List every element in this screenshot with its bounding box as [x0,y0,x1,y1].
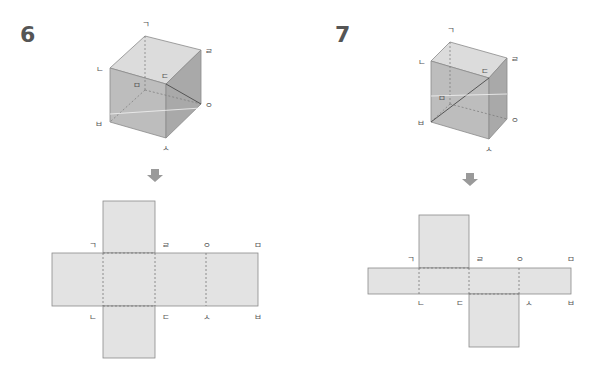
net-label: ㄴ [417,298,425,308]
vertex-label: ㄴ [418,57,426,67]
vertex-label: ㅂ [417,118,425,128]
net-label: ㅅ [203,312,211,322]
net-label: ㄱ [89,240,97,250]
net-label: ㅁ [254,240,262,250]
net-label: ㄷ [162,312,170,322]
cube-7: ㄱ ㄹ ㄴ ㄷ ㅁ ㅂ ㅅ ㅇ [417,25,519,154]
net-label: ㄴ [89,312,97,322]
net-label: ㄹ [476,254,484,264]
net-label: ㅇ [516,254,524,264]
vertex-label: ㄴ [96,64,104,74]
vertex-label: ㄷ [161,71,169,81]
vertex-label: ㄱ [447,25,455,35]
vertex-label: ㅁ [438,93,446,103]
vertex-label: ㄷ [481,66,489,76]
vertex-label: ㅇ [511,115,519,125]
arrow-down-icon [147,169,163,182]
vertex-label: ㅅ [485,144,493,154]
arrow-down-icon [462,173,478,186]
vertex-label: ㅅ [162,143,170,153]
vertex-label: ㅇ [205,100,213,110]
diagram-canvas: ㄱ ㄹ ㄴ ㄷ ㅁ ㅂ ㅅ ㅇ ㄱ ㄹ ㅇ ㅁ ㄴ ㄷ ㅅ ㅂ [0,0,590,376]
vertex-label: ㅁ [133,80,141,90]
vertex-label: ㄱ [142,19,150,29]
net-label: ㅂ [254,312,262,322]
net-label: ㄱ [407,254,415,264]
vertex-label: ㅂ [95,119,103,129]
net-label: ㅅ [525,298,533,308]
net-label: ㄹ [162,240,170,250]
net-label: ㅁ [567,254,575,264]
vertex-label: ㄹ [205,46,213,56]
net-label: ㄷ [456,298,464,308]
cube-6: ㄱ ㄹ ㄴ ㄷ ㅁ ㅂ ㅅ ㅇ [95,19,213,153]
net-label: ㅂ [567,298,575,308]
net-label: ㅇ [203,240,211,250]
vertex-label: ㄹ [511,54,519,64]
net-7: ㄱ ㄹ ㅇ ㅁ ㄴ ㄷ ㅅ ㅂ [368,215,575,347]
net-6: ㄱ ㄹ ㅇ ㅁ ㄴ ㄷ ㅅ ㅂ [52,201,262,358]
